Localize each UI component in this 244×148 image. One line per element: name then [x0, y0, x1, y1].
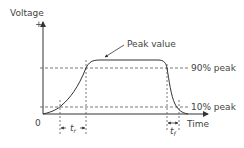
- level-90-label: 90% peak: [191, 63, 237, 73]
- peak-value-label: Peak value: [127, 39, 176, 49]
- fall-time-label: tf: [170, 126, 177, 137]
- pulse-diagram: Voltage + 0 Time Peak value 90% peak 10%…: [0, 0, 244, 148]
- level-10-label: 10% peak: [191, 102, 237, 112]
- x-axis-label: Time: [186, 119, 209, 129]
- y-axis-plus: +: [35, 19, 43, 29]
- peak-arrow: [105, 45, 124, 57]
- rise-time-label: tr: [70, 123, 77, 134]
- y-axis-label: Voltage: [10, 8, 44, 18]
- origin-label: 0: [35, 118, 41, 128]
